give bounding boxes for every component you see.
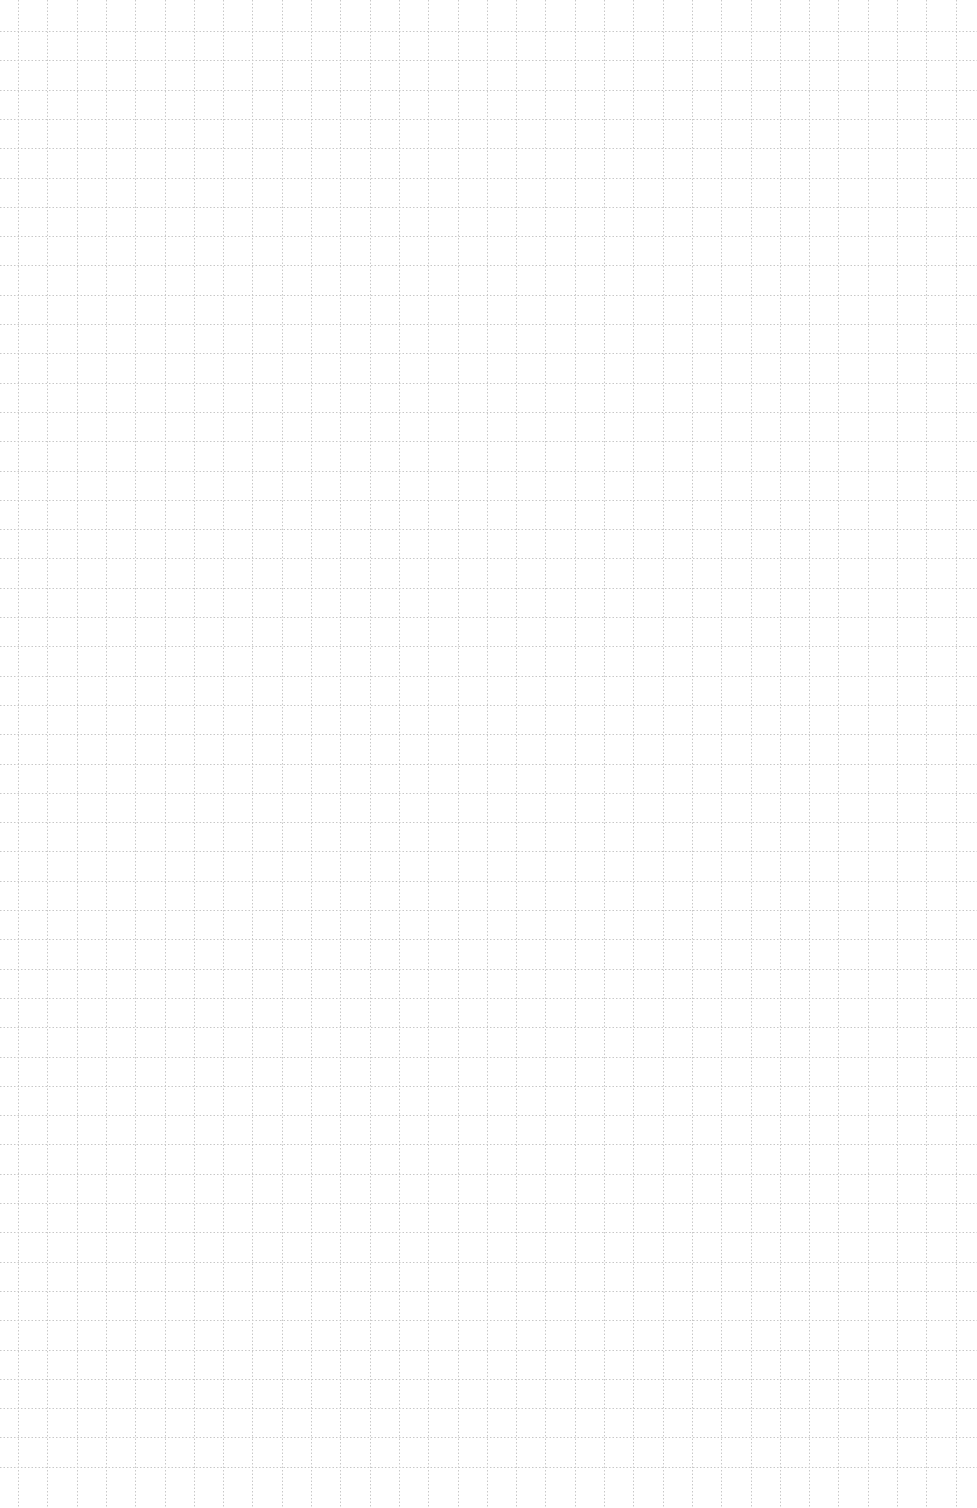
graph-paper-sheet bbox=[0, 0, 977, 1508]
grid-lines bbox=[0, 0, 977, 1508]
